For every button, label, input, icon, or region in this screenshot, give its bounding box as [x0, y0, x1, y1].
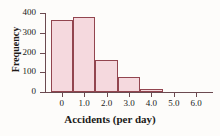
x-tick-mark — [174, 93, 175, 97]
y-tick-label: 0 — [2, 87, 36, 96]
y-tick-label: 300 — [2, 28, 36, 37]
x-tick-mark — [129, 93, 130, 97]
x-tick-label: 4.0 — [139, 98, 163, 108]
x-axis-title: Accidents (per day) — [0, 113, 220, 125]
y-tick-mark — [40, 33, 45, 34]
x-tick-mark — [196, 93, 197, 97]
x-tick-mark — [107, 93, 108, 97]
y-tick-label: 200 — [2, 48, 36, 57]
y-tick-mark — [40, 53, 45, 54]
histogram-bar — [118, 77, 140, 92]
x-tick-label: 2.0 — [95, 98, 119, 108]
histogram-chart: Frequency 0100200300400 01.02.03.04.05.0… — [0, 0, 220, 136]
x-tick-label: 1.0 — [72, 98, 96, 108]
histogram-bar — [51, 20, 73, 92]
y-tick-label: 400 — [2, 8, 36, 17]
y-tick-mark — [40, 72, 45, 73]
x-tick-label: 0 — [50, 98, 74, 108]
x-tick-mark — [151, 93, 152, 97]
x-tick-label: 3.0 — [117, 98, 141, 108]
histogram-bar — [73, 17, 95, 92]
y-tick-mark — [40, 92, 45, 93]
x-tick-label: 6.0 — [184, 98, 208, 108]
x-tick-mark — [62, 93, 63, 97]
x-tick-mark — [84, 93, 85, 97]
histogram-bar — [140, 89, 162, 92]
y-tick-mark — [40, 13, 45, 14]
y-tick-label: 100 — [2, 67, 36, 76]
histogram-bar — [95, 60, 117, 92]
x-tick-label: 5.0 — [162, 98, 186, 108]
y-axis-line — [45, 13, 46, 93]
